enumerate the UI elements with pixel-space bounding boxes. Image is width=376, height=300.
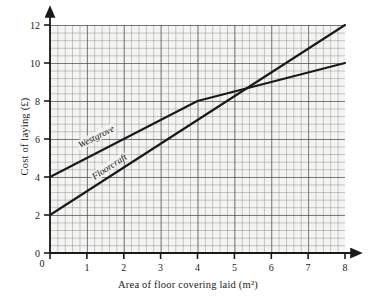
x-tick-label-6: 6 bbox=[269, 262, 274, 273]
x-tick-label-2: 2 bbox=[121, 262, 126, 273]
x-tick-label-5: 5 bbox=[232, 262, 237, 273]
series-line-floorcraft bbox=[50, 25, 345, 215]
x-tick-label-1: 1 bbox=[84, 262, 89, 273]
chart-svg bbox=[0, 0, 376, 300]
x-tick-label-4: 4 bbox=[195, 262, 200, 273]
x-tick-label-8: 8 bbox=[343, 262, 348, 273]
y-axis-title: Cost of laying (£) bbox=[19, 67, 30, 207]
x-axis-title: Area of floor covering laid (m²) bbox=[0, 279, 376, 290]
graph-figure: 0 2 4 6 8 10 12 0 1 2 3 4 5 6 7 8 Area o… bbox=[0, 0, 376, 300]
y-tick-label-2: 2 bbox=[20, 210, 40, 221]
x-tick-label-3: 3 bbox=[158, 262, 163, 273]
y-tick-label-12: 12 bbox=[20, 20, 40, 31]
x-tick-label-7: 7 bbox=[306, 262, 311, 273]
x-tick-label-0: 0 bbox=[40, 258, 45, 269]
y-tick-label-0: 0 bbox=[20, 248, 40, 259]
